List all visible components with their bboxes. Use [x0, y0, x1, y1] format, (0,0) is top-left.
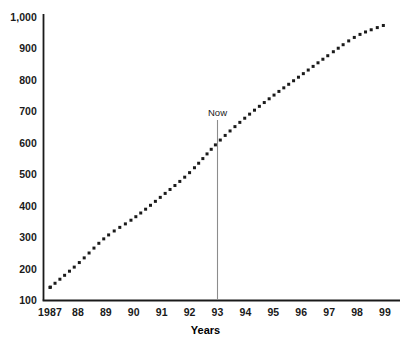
- y-axis-tick-label: 600: [0, 138, 37, 149]
- series-data-dot: [364, 30, 367, 33]
- series-data-dot: [233, 125, 236, 128]
- series-data-dot: [78, 261, 81, 264]
- series-data-dot: [63, 274, 66, 277]
- series-data-dot: [197, 162, 200, 165]
- series-data-dot: [382, 24, 385, 27]
- series-data-dot: [144, 208, 147, 211]
- series-data-dot: [321, 58, 324, 61]
- x-axis-title: Years: [0, 325, 411, 336]
- series-data-dot: [169, 188, 172, 191]
- chart-container: 1,000900800700600500400300200100 1987888…: [0, 0, 411, 343]
- series-data-dot: [268, 97, 271, 100]
- series-data-dot: [193, 166, 196, 169]
- series-data-dot: [224, 134, 227, 137]
- y-axis-tick-label: 100: [0, 295, 37, 306]
- series-data-dot: [73, 266, 76, 269]
- series-data-dot: [183, 176, 186, 179]
- series-data-dot: [201, 157, 204, 160]
- y-axis-tick-label: 200: [0, 264, 37, 275]
- series-data-dot: [347, 39, 350, 42]
- series-data-dot: [342, 43, 345, 46]
- series-data-dot: [248, 113, 251, 116]
- series-data-dot: [229, 129, 232, 132]
- series-data-dot: [307, 69, 310, 72]
- series-data-dot: [263, 101, 266, 104]
- series-data-dot: [337, 47, 340, 50]
- series-data-dot: [92, 247, 95, 250]
- series-data-dot: [188, 171, 191, 174]
- series-data-dot: [49, 286, 52, 289]
- series-data-dot: [376, 26, 379, 29]
- series-data-dot: [58, 278, 61, 281]
- series-data-dot: [124, 222, 127, 225]
- series-data-dot: [219, 139, 222, 142]
- series-data-dot: [107, 233, 110, 236]
- series-data-dot: [154, 200, 157, 203]
- series-data-dot: [54, 282, 57, 285]
- series-data-dot: [214, 143, 217, 146]
- series-data-dot: [317, 61, 320, 64]
- series-data-dot: [83, 256, 86, 259]
- now-annotation-label: Now: [188, 108, 248, 118]
- series-data-dot: [253, 109, 256, 112]
- y-axis-tick-label: 900: [0, 43, 37, 54]
- series-data-dot: [139, 212, 142, 215]
- y-axis-tick-label: 1,000: [0, 12, 37, 23]
- series-data-dot: [118, 226, 121, 229]
- y-axis-tick-label: 800: [0, 75, 37, 86]
- axes-group: [43, 14, 400, 301]
- series-data-dot: [312, 65, 315, 68]
- series-data-dot: [173, 184, 176, 187]
- series-data-dot: [159, 196, 162, 199]
- series-data-dot: [273, 94, 276, 97]
- series-data-dot: [353, 36, 356, 39]
- x-axis-tick-label: 99: [365, 307, 405, 318]
- series-data-dot: [113, 229, 116, 232]
- series-data-dot: [359, 33, 362, 36]
- series-data-dot: [68, 270, 71, 273]
- series-data-dot: [164, 192, 167, 195]
- series-data-dot: [287, 83, 290, 86]
- series-data-dot: [210, 148, 213, 151]
- series-data-dot: [277, 90, 280, 93]
- y-axis-tick-label: 300: [0, 232, 37, 243]
- y-axis-tick-label: 400: [0, 201, 37, 212]
- series-data-dot: [302, 72, 305, 75]
- series-data-dot: [97, 242, 100, 245]
- series-data-dot: [332, 50, 335, 53]
- series-data-dot: [292, 79, 295, 82]
- plot-area-svg: [0, 0, 411, 343]
- series-data-dot: [206, 152, 209, 155]
- series-data-dot: [258, 105, 261, 108]
- series-data-dot: [326, 54, 329, 57]
- y-axis-tick-label: 500: [0, 169, 37, 180]
- series-data-dot: [149, 204, 152, 207]
- y-axis-tick-label: 700: [0, 106, 37, 117]
- series-data-dot: [370, 28, 373, 31]
- data-series-dots: [49, 24, 385, 289]
- series-data-dot: [102, 237, 105, 240]
- series-data-dot: [297, 76, 300, 79]
- series-data-dot: [282, 86, 285, 89]
- series-data-dot: [178, 180, 181, 183]
- series-data-dot: [238, 121, 241, 124]
- series-data-dot: [88, 252, 91, 255]
- series-data-dot: [129, 219, 132, 222]
- series-data-dot: [134, 215, 137, 218]
